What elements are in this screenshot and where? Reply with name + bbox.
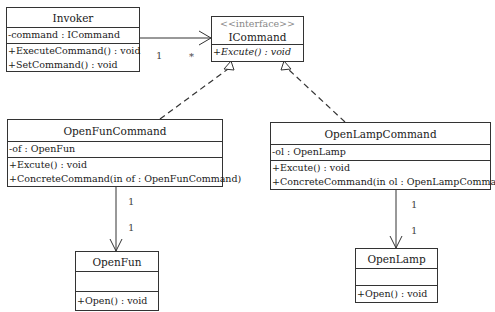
class-openlamp[interactable]: OpenLamp +Open() : void (355, 248, 438, 303)
multiplicity-openlamp-target: 1 (411, 225, 417, 236)
operations-compartment: +Open() : void (76, 292, 158, 308)
multiplicity-openfun-target: 1 (128, 222, 134, 233)
operations-compartment: +Excute() : void (212, 45, 303, 59)
operation: +Excute() : void (272, 161, 490, 175)
class-header: OpenFunCommand (8, 120, 222, 142)
realization-triangle-icon (281, 61, 291, 70)
multiplicity-invoker-source: 1 (156, 50, 162, 61)
operation: +ConcreteCommand(in ol : OpenLampCommand… (272, 175, 490, 189)
class-name: OpenLampCommand (271, 128, 490, 140)
attributes-compartment (76, 272, 158, 292)
realization-openlampcommand (288, 69, 345, 122)
attribute: -of : OpenFun (9, 142, 222, 156)
stereotype-label: <<interface>> (212, 18, 303, 30)
class-name: Invoker (7, 12, 139, 24)
class-openlampcommand[interactable]: OpenLampCommand -ol : OpenLamp +Excute()… (270, 122, 491, 190)
class-name: OpenFun (76, 256, 158, 268)
class-name: ICommand (212, 30, 303, 44)
class-name: OpenLamp (356, 253, 437, 265)
class-header: <<interface>> ICommand (212, 17, 303, 45)
operation: +ConcreteCommand(in of : OpenFunCommand) (9, 172, 222, 186)
class-header: OpenFun (76, 252, 158, 272)
multiplicity-openlampcommand-source: 1 (411, 199, 417, 210)
realization-openfuncommand (160, 69, 228, 119)
interface-icommand[interactable]: <<interface>> ICommand +Excute() : void (211, 16, 304, 62)
class-openfun[interactable]: OpenFun +Open() : void (75, 251, 159, 311)
attribute: -ol : OpenLamp (272, 145, 490, 159)
operation: +Excute() : void (9, 158, 222, 172)
class-header: Invoker (7, 8, 139, 28)
attribute: -command : ICommand (8, 28, 139, 42)
multiplicity-icommand-target: * (189, 51, 194, 62)
operation: +Open() : void (357, 287, 437, 301)
class-openfuncommand[interactable]: OpenFunCommand -of : OpenFun +Excute() :… (7, 119, 223, 187)
class-header: OpenLamp (356, 249, 437, 269)
operation: +ExecuteCommand() : void (8, 44, 139, 58)
operations-compartment: +Excute() : void +ConcreteCommand(in ol … (271, 161, 490, 189)
class-name: OpenFunCommand (8, 125, 222, 137)
multiplicity-openfuncommand-source: 1 (128, 196, 134, 207)
attributes-compartment: -command : ICommand (7, 28, 139, 44)
operations-compartment: +ExecuteCommand() : void +SetCommand() :… (7, 44, 139, 72)
attributes-compartment: -ol : OpenLamp (271, 145, 490, 161)
attributes-compartment (356, 269, 437, 286)
operations-compartment: +Open() : void (356, 286, 437, 301)
operation: +Excute() : void (213, 45, 303, 59)
operations-compartment: +Excute() : void +ConcreteCommand(in of … (8, 158, 222, 186)
operation: +Open() : void (77, 294, 158, 308)
class-invoker[interactable]: Invoker -command : ICommand +ExecuteComm… (6, 7, 140, 72)
class-header: OpenLampCommand (271, 123, 490, 145)
realization-triangle-icon (224, 61, 234, 70)
operation: +SetCommand() : void (8, 58, 139, 72)
attributes-compartment: -of : OpenFun (8, 142, 222, 158)
